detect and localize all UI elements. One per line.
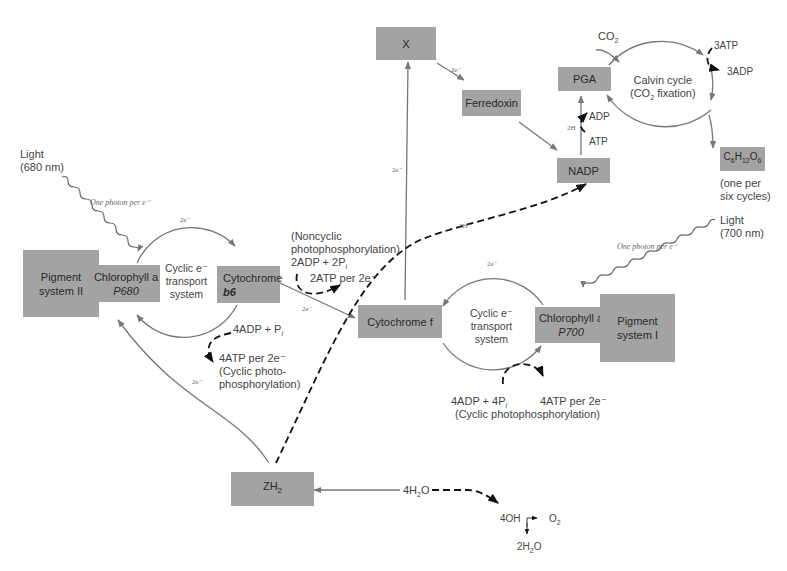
- box-chlorophyll-p680: Chlorophyll a P680: [92, 265, 160, 302]
- light-700-wavelength: (700 nm): [720, 227, 764, 240]
- box-nadp: NADP: [557, 158, 610, 183]
- chl-p700-id: P700: [558, 325, 584, 339]
- cyclic-ps1-l1: Cyclic e⁻: [470, 307, 513, 320]
- light-wave-ps2: [62, 177, 139, 252]
- 2e-label-ps2-top: 2e⁻: [180, 214, 191, 227]
- 3atp-label: 3ATP: [714, 39, 738, 52]
- box-cytochrome-f: Cytochrome f: [358, 305, 442, 338]
- noncyclic-label: (Noncyclic photophosphorylation) 2ADP + …: [291, 230, 400, 273]
- 3adp-label: 3ADP: [727, 65, 753, 78]
- photon-ps2-label: One photon per e⁻: [90, 196, 150, 209]
- cyc1-adp-label: 4ADP + Pi: [233, 323, 283, 340]
- 2e-label-ferredoxin: 2e⁻: [451, 64, 462, 77]
- 2e-label-x: 2e⁻: [392, 164, 403, 177]
- glucose-formula: C6H12O6: [724, 150, 762, 168]
- cyclic-ps2-l3: system: [165, 288, 208, 301]
- chl-p680-id: P680: [113, 284, 139, 298]
- box-zh2: ZH2: [231, 472, 314, 506]
- light-680-label: Light (680 nm): [20, 148, 64, 174]
- calvin-l1: Calvin cycle: [630, 74, 696, 87]
- light-680-wavelength: (680 nm): [20, 161, 64, 174]
- chl-p680-name: Chlorophyll a: [94, 270, 158, 284]
- box-glucose: C6H12O6: [720, 147, 765, 171]
- cyc1-note-l2: phosphorylation): [219, 378, 300, 391]
- cyc2-note-label: (Cyclic photophosphorylation): [455, 408, 600, 421]
- box-x-label: X: [402, 37, 409, 51]
- box-cytochrome-b6: Cytochrome b6: [217, 266, 280, 303]
- glucose-note: (one per six cycles): [720, 177, 771, 203]
- noncyclic-atp-label: 2ATP per 2e⁻: [310, 272, 377, 285]
- light-700-label: Light (700 nm): [720, 214, 764, 240]
- box-ps1-label: Pigment system I: [608, 314, 668, 342]
- photon-ps1-label: One photon per e⁻: [617, 240, 677, 253]
- cyclic-ps1-l3: system: [470, 333, 513, 346]
- cyclic-ps2-l1: Cyclic e⁻: [165, 262, 208, 275]
- noncyclic-l1: (Noncyclic: [291, 230, 400, 243]
- atp-pga-label: ATP: [589, 135, 608, 148]
- 2h-label: 2H: [567, 122, 576, 135]
- cyc1-note-l1: (Cyclic photo-: [219, 365, 300, 378]
- light-wave-ps1: [583, 219, 715, 287]
- chl-p700-name: Chlorophyll a: [539, 311, 603, 325]
- cyclic-ps1-l2: transport: [470, 320, 513, 333]
- box-ps2-label: Pigment system II: [31, 270, 91, 298]
- cyclic-ps2-l2: transport: [165, 275, 208, 288]
- box-pigment-system-2: Pigment system II: [23, 250, 99, 317]
- glucose-note-l1: (one per: [720, 177, 771, 190]
- cyc1-atp-label: 4ATP per 2e⁻ (Cyclic photo- phosphorylat…: [219, 352, 300, 391]
- light-680-title: Light: [20, 148, 64, 161]
- cytb6-id: b6: [223, 285, 236, 299]
- box-chlorophyll-p700: Chlorophyll a P700: [535, 307, 607, 343]
- noncyclic-l3: 2ADP + 2Pi: [291, 256, 400, 273]
- cytb6-name: Cytochrome: [223, 271, 282, 285]
- 2h-plus-label: 2H⁺: [459, 220, 472, 233]
- co2-input-label: CO2: [598, 30, 618, 47]
- glucose-note-l2: six cycles): [720, 190, 771, 203]
- o2-label: O2: [549, 512, 561, 529]
- box-pga: PGA: [558, 67, 611, 91]
- dashed-flow-arrows: [209, 48, 719, 503]
- box-pigment-system-1: Pigment system I: [600, 294, 675, 362]
- adp-pga-label: ADP: [589, 110, 610, 123]
- cyc1-atp: 4ATP per 2e⁻: [219, 352, 300, 365]
- box-x: X: [376, 27, 436, 60]
- cyc2-atp-label: 4ATP per 2e⁻: [540, 395, 607, 408]
- water-label: 4H2O: [403, 484, 430, 501]
- calvin-l2: (CO2 fixation): [630, 87, 696, 104]
- zh2-label: ZH2: [263, 479, 282, 498]
- oxygen-split-arrows: [527, 518, 537, 534]
- cyclic-ps1-label: Cyclic e⁻ transport system: [470, 307, 513, 346]
- cyclic-ps2-label: Cyclic e⁻ transport system: [165, 262, 208, 301]
- box-nadp-label: NADP: [568, 164, 599, 178]
- light-700-title: Light: [720, 214, 764, 227]
- water-out-label: 2H2O: [517, 540, 541, 557]
- box-ferredoxin-label: Ferredoxin: [465, 96, 518, 110]
- noncyclic-l2: photophosphorylation): [291, 243, 400, 256]
- box-ferredoxin: Ferredoxin: [462, 90, 521, 116]
- oh-label: 4OH: [500, 512, 521, 525]
- 2e-label-ps1-top: 2e⁻: [487, 258, 498, 271]
- 2e-label-cytb6: 2e⁻: [302, 303, 313, 316]
- calvin-cycle-label: Calvin cycle (CO2 fixation): [630, 74, 696, 104]
- 2e-label-zh2: 2e⁻: [192, 376, 203, 389]
- cytf-label: Cytochrome f: [367, 315, 432, 329]
- box-pga-label: PGA: [573, 72, 596, 86]
